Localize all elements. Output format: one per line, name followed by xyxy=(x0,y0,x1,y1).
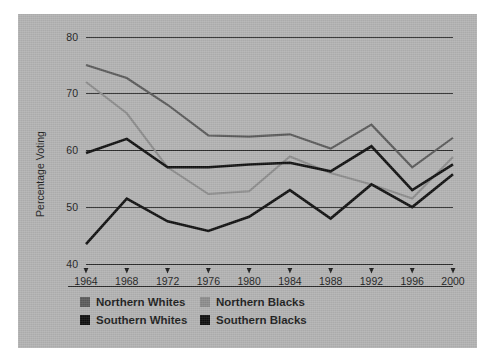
x-tick-label: 1996 xyxy=(401,275,425,287)
y-axis-tick-labels: 4050607080 xyxy=(66,31,78,270)
x-tick-label: 2000 xyxy=(441,275,465,287)
x-tick-mark xyxy=(84,268,89,274)
x-tick-label: 1984 xyxy=(278,275,302,287)
legend-swatch xyxy=(80,297,90,307)
x-tick-mark xyxy=(369,268,374,274)
x-tick-mark xyxy=(410,268,415,274)
series-line-southern-blacks xyxy=(86,174,453,244)
x-tick-mark xyxy=(165,268,170,274)
series-line-southern-whites xyxy=(86,139,453,190)
x-tick-mark xyxy=(328,268,333,274)
x-tick-label: 1976 xyxy=(197,275,221,287)
series-lines-group xyxy=(86,65,453,244)
x-tick-label: 1972 xyxy=(156,275,180,287)
x-tick-label: 1988 xyxy=(319,275,343,287)
x-tick-mark xyxy=(206,268,211,274)
legend: Northern WhitesNorthern BlacksSouthern W… xyxy=(80,296,307,326)
legend-label: Southern Blacks xyxy=(216,314,307,326)
legend-label: Northern Whites xyxy=(96,296,185,308)
x-axis-tick-labels: 1964196819721976198019841988199219962000 xyxy=(74,275,465,287)
x-axis-tick-marks xyxy=(84,268,456,274)
series-line-northern-blacks xyxy=(86,82,453,199)
legend-label: Southern Whites xyxy=(96,314,187,326)
series-line-northern-whites xyxy=(86,65,453,167)
y-tick-label: 50 xyxy=(66,201,78,213)
y-tick-label: 40 xyxy=(66,258,78,270)
y-axis-title: Percentage Voting xyxy=(34,131,46,217)
x-tick-label: 1992 xyxy=(360,275,384,287)
line-chart: 4050607080 19641968197219761980198419881… xyxy=(18,14,477,348)
legend-label: Northern Blacks xyxy=(216,296,305,308)
x-tick-label: 1964 xyxy=(74,275,98,287)
x-tick-mark xyxy=(287,268,292,274)
x-tick-mark xyxy=(451,268,456,274)
x-tick-label: 1980 xyxy=(237,275,261,287)
y-tick-label: 80 xyxy=(66,31,78,43)
legend-swatch xyxy=(200,297,210,307)
y-tick-label: 70 xyxy=(66,87,78,99)
legend-swatch xyxy=(80,315,90,325)
chart-plate: 4050607080 19641968197219761980198419881… xyxy=(18,14,477,348)
y-tick-label: 60 xyxy=(66,144,78,156)
x-tick-mark xyxy=(247,268,252,274)
x-tick-label: 1968 xyxy=(115,275,139,287)
legend-swatch xyxy=(200,315,210,325)
figure-container: 4050607080 19641968197219761980198419881… xyxy=(0,0,493,363)
x-tick-mark xyxy=(124,268,129,274)
